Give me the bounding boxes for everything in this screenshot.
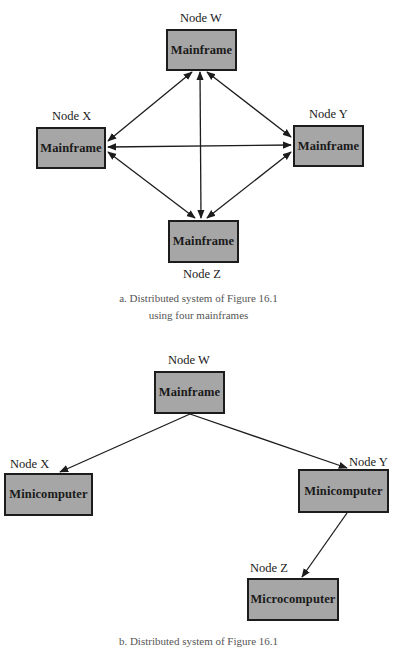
node-a-x-label: Node X <box>52 109 91 124</box>
node-a-z-type: Mainframe <box>173 234 234 249</box>
node-b-x-type: Minicomputer <box>9 487 87 502</box>
edge-b-w-y <box>190 414 347 468</box>
node-b-z-type: Microcomputer <box>250 592 335 607</box>
node-b-y-box: Minicomputer <box>298 469 389 513</box>
node-b-x-box: Minicomputer <box>4 473 93 516</box>
figure-a-edges <box>108 72 291 218</box>
edge-a-w-y <box>207 72 291 137</box>
node-a-w-label: Node W <box>180 11 222 26</box>
edge-b-w-x <box>60 414 190 472</box>
node-a-y-box: Mainframe <box>293 125 364 167</box>
node-a-y-label: Node Y <box>309 107 348 122</box>
node-b-z-label: Node Z <box>250 561 288 576</box>
node-b-x-label: Node X <box>10 457 49 472</box>
node-a-z-box: Mainframe <box>168 220 239 263</box>
edge-a-y-z <box>207 152 291 218</box>
edge-a-x-z <box>108 152 195 218</box>
node-a-z-label: Node Z <box>183 267 221 282</box>
node-a-w-box: Mainframe <box>166 29 237 71</box>
figure-a-caption-line2: using four mainframes <box>0 307 397 323</box>
edge-a-w-z <box>200 72 201 218</box>
node-b-y-label: Node Y <box>349 455 388 470</box>
edge-a-x-y <box>108 145 291 147</box>
node-b-z-box: Microcomputer <box>247 578 339 621</box>
edge-b-y-z <box>302 513 347 577</box>
node-a-x-type: Mainframe <box>40 141 101 156</box>
node-b-y-type: Minicomputer <box>304 484 382 499</box>
node-a-y-type: Mainframe <box>298 139 359 154</box>
node-b-w-label: Node W <box>168 353 210 368</box>
edge-a-w-x <box>108 72 192 141</box>
figure-b-caption-line1: b. Distributed system of Figure 16.1 <box>0 633 397 649</box>
node-a-w-type: Mainframe <box>171 43 232 58</box>
node-b-w-box: Mainframe <box>154 371 225 414</box>
node-b-w-type: Mainframe <box>159 385 220 400</box>
node-a-x-box: Mainframe <box>36 127 106 169</box>
diagram-edges <box>0 0 397 652</box>
figure-a-caption-line1: a. Distributed system of Figure 16.1 <box>0 290 397 306</box>
